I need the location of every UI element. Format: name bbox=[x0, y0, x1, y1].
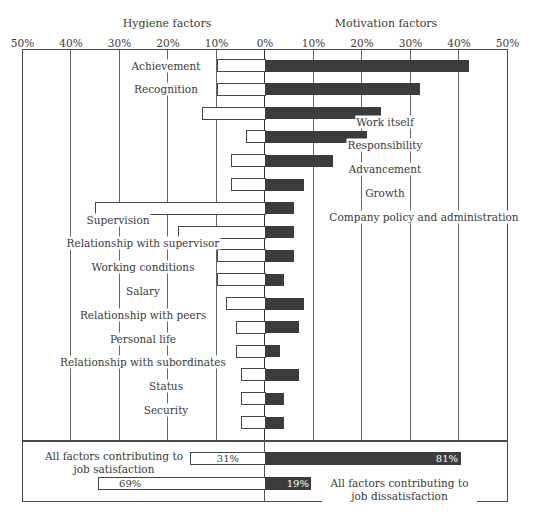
category-label: Company policy and administration bbox=[328, 210, 519, 223]
bar-dissatisfaction bbox=[236, 345, 266, 358]
x-tick-label: 30% bbox=[108, 37, 131, 49]
category-label: Advancement bbox=[348, 163, 423, 176]
category-label: Work itself bbox=[355, 115, 415, 128]
x-tick-label: 50% bbox=[496, 37, 519, 49]
bar-satisfaction bbox=[265, 202, 294, 214]
gridline bbox=[410, 50, 411, 440]
x-tick-label: 40% bbox=[447, 37, 470, 49]
summary-label-satisfaction: All factors contributing to job satisfac… bbox=[44, 450, 184, 476]
summary-value: 31% bbox=[191, 453, 265, 465]
bar-dissatisfaction bbox=[202, 107, 266, 120]
bar-satisfaction bbox=[265, 345, 280, 357]
bar-dissatisfaction bbox=[241, 392, 266, 405]
bar-satisfaction bbox=[265, 393, 284, 405]
category-label: Status bbox=[148, 380, 184, 393]
summary-satisfaction-left-bar: 31% bbox=[190, 452, 266, 465]
bar-dissatisfaction bbox=[246, 130, 266, 143]
x-tick-label: 10% bbox=[205, 37, 228, 49]
bar-dissatisfaction bbox=[217, 273, 267, 286]
bar-dissatisfaction bbox=[231, 178, 266, 191]
bar-dissatisfaction bbox=[241, 368, 266, 381]
bar-satisfaction bbox=[265, 60, 469, 72]
category-label: Growth bbox=[364, 187, 406, 200]
bar-satisfaction bbox=[265, 83, 420, 95]
category-label: Personal life bbox=[109, 332, 177, 345]
category-label: Achievement bbox=[130, 59, 201, 72]
gridline bbox=[458, 50, 459, 440]
bar-satisfaction bbox=[265, 298, 304, 310]
summary-value: 19% bbox=[265, 477, 309, 490]
category-label: Supervision bbox=[85, 213, 150, 226]
bar-dissatisfaction bbox=[231, 154, 266, 167]
category-label: Relationship with subordinates bbox=[59, 356, 227, 369]
summary-satisfaction-right-bar: 81% bbox=[265, 452, 461, 465]
bar-satisfaction bbox=[265, 155, 333, 167]
x-tick-label: 0% bbox=[257, 37, 274, 49]
chart-root: Hygiene factors Motivation factors 50%40… bbox=[0, 0, 533, 520]
bar-dissatisfaction bbox=[217, 59, 267, 72]
x-tick-label: 30% bbox=[399, 37, 422, 49]
bar-satisfaction bbox=[265, 226, 294, 238]
category-label: Recognition bbox=[133, 83, 199, 96]
summary-zero-line bbox=[264, 441, 265, 501]
bar-dissatisfaction bbox=[226, 297, 266, 310]
x-tick-label: 20% bbox=[156, 37, 179, 49]
category-label: Working conditions bbox=[90, 261, 195, 274]
bar-satisfaction bbox=[265, 417, 284, 429]
x-tick-label: 40% bbox=[59, 37, 82, 49]
bar-satisfaction bbox=[265, 250, 294, 262]
title-motivation-factors: Motivation factors bbox=[335, 17, 437, 30]
summary-value: 69% bbox=[119, 478, 265, 490]
category-label: Relationship with supervisor bbox=[66, 237, 221, 250]
x-tick-label: 10% bbox=[302, 37, 325, 49]
summary-label-dissatisfaction: All factors contributing to job dissatis… bbox=[322, 477, 477, 503]
summary-dissatisfaction-right-bar: 19% bbox=[265, 477, 311, 490]
category-label: Salary bbox=[125, 285, 161, 298]
title-hygiene-factors: Hygiene factors bbox=[123, 17, 212, 30]
bar-dissatisfaction bbox=[217, 249, 267, 262]
bar-satisfaction bbox=[265, 274, 284, 286]
bar-dissatisfaction bbox=[236, 321, 266, 334]
category-label: Relationship with peers bbox=[79, 308, 207, 321]
summary-dissatisfaction-left-bar: 69% bbox=[98, 477, 266, 490]
x-tick-label: 50% bbox=[11, 37, 34, 49]
category-label: Responsibility bbox=[346, 139, 423, 152]
category-label: Security bbox=[143, 404, 190, 417]
x-tick-label: 20% bbox=[350, 37, 373, 49]
bar-satisfaction bbox=[265, 179, 304, 191]
bar-satisfaction bbox=[265, 369, 299, 381]
bar-satisfaction bbox=[265, 321, 299, 333]
bar-dissatisfaction bbox=[241, 416, 266, 429]
summary-value: 81% bbox=[265, 452, 458, 465]
bar-dissatisfaction bbox=[217, 83, 267, 96]
